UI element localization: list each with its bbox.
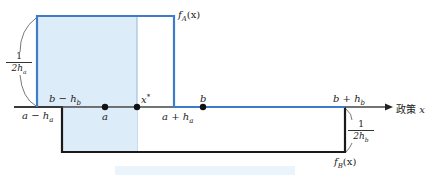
- axis-arrow-icon: [385, 104, 393, 111]
- label-a: a: [102, 112, 108, 122]
- label-b: b: [200, 94, 206, 104]
- f-a-label: fA(x): [178, 10, 200, 23]
- diagram-canvas: [0, 0, 433, 175]
- point-a-dot: [102, 104, 108, 110]
- axis-label: 政策 x: [396, 101, 425, 116]
- label-b-plus-hb: b + hb: [333, 94, 365, 107]
- label-x-star: x*: [141, 94, 150, 105]
- label-a-plus-ha: a + ha: [162, 112, 193, 125]
- f-b-height-label: 1 2hb: [348, 120, 374, 144]
- shaded-region-lower: [63, 108, 137, 151]
- f-a-height-label: 1 2ha: [6, 52, 32, 76]
- label-b-minus-hb: b − hb: [49, 94, 81, 107]
- point-b-dot: [200, 104, 206, 110]
- caption-band: [115, 166, 295, 175]
- f-b-label: fB(x): [334, 157, 356, 170]
- label-a-minus-ha: a − ha: [22, 111, 53, 124]
- point-x-star-dot: [134, 104, 140, 110]
